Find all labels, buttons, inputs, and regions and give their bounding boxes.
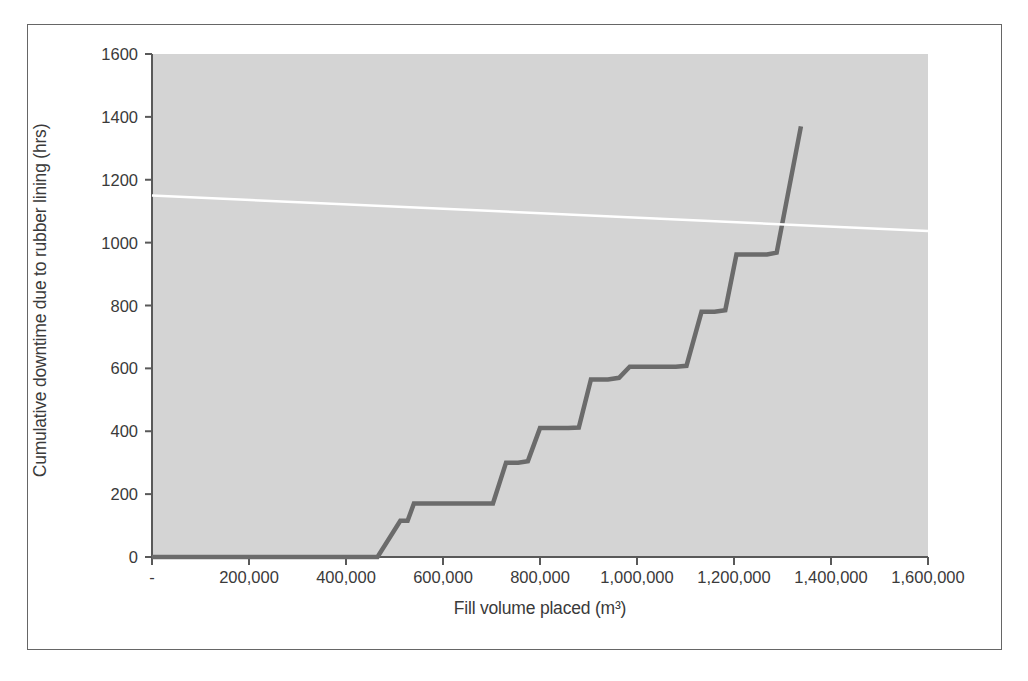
y-tick-label: 1600 bbox=[78, 45, 138, 64]
x-axis-tick-labels: -200,000400,000600,000800,0001,000,0001,… bbox=[0, 568, 1028, 594]
y-tick-label: 1400 bbox=[78, 107, 138, 126]
y-tick-label: 0 bbox=[78, 548, 138, 567]
y-axis-ticks bbox=[145, 54, 152, 557]
y-tick-label: 400 bbox=[78, 422, 138, 441]
y-tick-label: 200 bbox=[78, 485, 138, 504]
y-axis-title: Cumulative downtime due to rubber lining… bbox=[30, 66, 51, 536]
y-tick-label: 800 bbox=[78, 296, 138, 315]
y-tick-label: 600 bbox=[78, 359, 138, 378]
x-tick-label: 1,600,000 bbox=[863, 568, 993, 587]
y-tick-label: 1000 bbox=[78, 233, 138, 252]
plot-background bbox=[152, 54, 928, 557]
x-axis-title: Fill volume placed (m³) bbox=[152, 598, 928, 619]
y-tick-label: 1200 bbox=[78, 170, 138, 189]
